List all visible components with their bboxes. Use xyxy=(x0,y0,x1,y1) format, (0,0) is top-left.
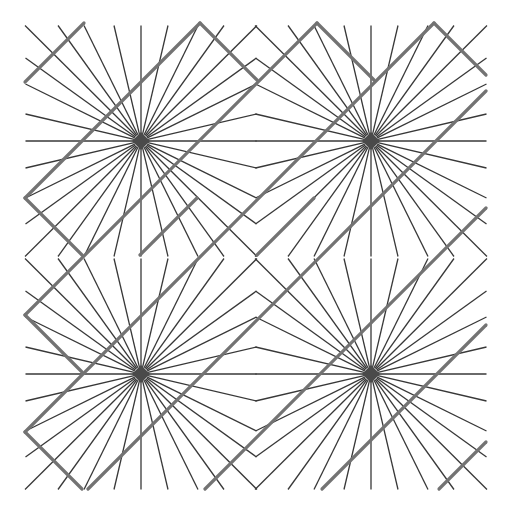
illusion-figure xyxy=(0,0,517,520)
